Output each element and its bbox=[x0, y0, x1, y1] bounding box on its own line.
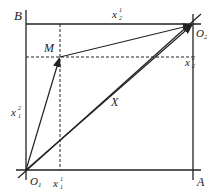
svg-text:x: x bbox=[10, 106, 16, 118]
svg-text:2: 2 bbox=[119, 15, 122, 21]
axis-label-bottom: x 1 1 bbox=[52, 176, 63, 190]
vector-label-x: X bbox=[110, 95, 119, 109]
svg-text:2: 2 bbox=[18, 105, 21, 111]
svg-text:x: x bbox=[52, 177, 58, 189]
edgeworth-box-diagram: B O2 A O1 M X x 1 1 x 2 1 x 1 2 x 2 2 bbox=[0, 0, 207, 196]
svg-text:2: 2 bbox=[192, 63, 195, 69]
svg-text:x: x bbox=[184, 56, 190, 68]
svg-text:1: 1 bbox=[60, 184, 63, 190]
vector-m-to-o2 bbox=[60, 25, 192, 57]
point-label-m: M bbox=[43, 41, 55, 55]
corner-label-a: A bbox=[196, 175, 205, 189]
axis-label-top: x 1 2 bbox=[111, 7, 122, 21]
svg-text:2: 2 bbox=[192, 55, 195, 61]
corner-label-o2: O2 bbox=[196, 27, 207, 41]
svg-text:1: 1 bbox=[119, 7, 122, 13]
svg-text:1: 1 bbox=[18, 113, 21, 119]
svg-text:x: x bbox=[111, 8, 117, 20]
corner-label-o1: O1 bbox=[30, 175, 41, 189]
svg-text:1: 1 bbox=[60, 176, 63, 182]
corner-label-b: B bbox=[14, 8, 22, 23]
vector-o1-to-m bbox=[26, 58, 60, 170]
axis-label-left: x 2 1 bbox=[10, 105, 21, 119]
